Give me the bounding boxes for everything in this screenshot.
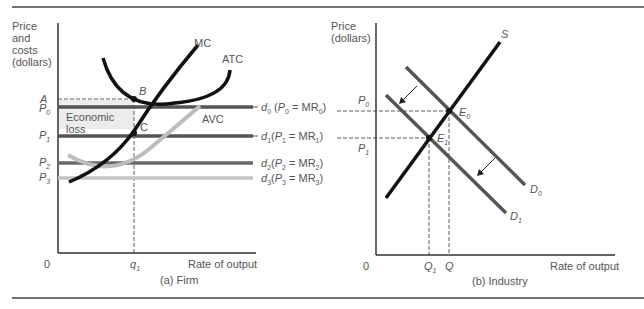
- tick-P0: P0: [39, 102, 50, 116]
- industry-y-label-line2: (dollars): [331, 32, 371, 44]
- firm-y-label-line1: Price: [12, 20, 37, 32]
- firm-x-label: Rate of output: [188, 258, 257, 270]
- industry-supply-S: [386, 42, 500, 198]
- label-MC: MC: [194, 37, 211, 49]
- point-B: [131, 96, 137, 102]
- label-E0: E0: [459, 106, 470, 120]
- point-C: [131, 130, 137, 136]
- label-d2: d2(P2 = MR2): [261, 157, 323, 171]
- tick-industry-P0: P0: [358, 94, 369, 108]
- firm-y-label-line3: costs: [12, 44, 38, 56]
- industry-y-label-line1: Price: [331, 20, 356, 32]
- figure-canvas: Price and costs (dollars) A P0 P1 P2 P3 …: [0, 0, 644, 309]
- label-ATC: ATC: [222, 53, 243, 65]
- tick-industry-P1: P1: [358, 142, 369, 156]
- shift-arrow-upper-icon: [399, 86, 417, 104]
- label-AVC: AVC: [202, 113, 224, 125]
- tick-P3: P3: [39, 171, 50, 185]
- label-d1: d1(P1 = MR1): [261, 130, 323, 144]
- label-D0: D0: [530, 183, 542, 197]
- industry-x-label: Rate of output: [550, 260, 619, 272]
- label-E1: E1: [437, 132, 448, 146]
- atc-curve: [103, 58, 230, 104]
- firm-y-label-line4: (dollars): [12, 56, 52, 68]
- label-D1: D1: [510, 210, 522, 224]
- tick-Q1: Q1: [424, 260, 437, 274]
- firm-caption: (a) Firm: [160, 274, 199, 286]
- label-d3: d3(P3 = MR3): [261, 172, 323, 186]
- shift-arrow-lower-icon: [477, 158, 495, 176]
- industry-caption: (b) Industry: [472, 275, 528, 287]
- label-economic: Economic: [66, 111, 115, 123]
- industry-demand-D1: [386, 95, 506, 213]
- firm-y-label-line2: and: [12, 32, 30, 44]
- label-loss: loss: [66, 123, 86, 135]
- tick-Q: Q: [445, 260, 454, 272]
- panel-industry: [376, 23, 615, 255]
- label-point-B: B: [139, 85, 146, 97]
- label-point-C: C: [140, 121, 148, 133]
- point-E1: [426, 135, 432, 141]
- industry-origin: 0: [363, 260, 369, 272]
- firm-origin: 0: [44, 258, 50, 270]
- tick-P1: P1: [39, 129, 50, 143]
- label-d0: d0 (P0 = MR0): [261, 101, 326, 115]
- industry-demand-D0: [406, 67, 525, 185]
- tick-q1: q1: [130, 258, 140, 272]
- point-E0: [446, 108, 452, 114]
- label-S: S: [501, 28, 509, 40]
- tick-P2: P2: [39, 156, 50, 170]
